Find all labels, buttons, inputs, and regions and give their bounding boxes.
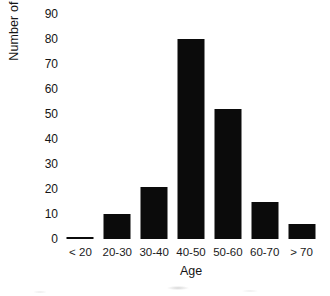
bar-slot <box>283 14 320 239</box>
bar <box>104 214 131 239</box>
bar <box>214 109 241 239</box>
y-tick-30: 30 <box>30 158 58 170</box>
y-axis-title: Number of patients <box>7 0 29 82</box>
scan-artifact <box>0 284 330 296</box>
y-tick-0: 0 <box>30 233 58 245</box>
y-tick-50: 50 <box>30 108 58 120</box>
y-tick-20: 20 <box>30 183 58 195</box>
bar-slot <box>136 14 173 239</box>
bar <box>288 224 315 239</box>
y-tick-70: 70 <box>30 58 58 70</box>
y-tick-90: 90 <box>30 8 58 20</box>
bar-slot <box>246 14 283 239</box>
x-tick-70: > 70 <box>280 245 324 260</box>
bar-slot <box>209 14 246 239</box>
bar <box>177 39 204 239</box>
bar <box>251 202 278 240</box>
x-axis-tick-labels: < 2020-3030-4040-5050-6060-70> 70 <box>62 245 320 263</box>
x-axis-title: Age <box>62 264 320 278</box>
y-tick-60: 60 <box>30 83 58 95</box>
y-tick-40: 40 <box>30 133 58 145</box>
y-tick-10: 10 <box>30 208 58 220</box>
bar-chart-figure: Number of patients 0102030405060708090 <… <box>0 0 330 296</box>
y-axis-tick-labels: 0102030405060708090 <box>30 0 58 296</box>
bar-slot <box>62 14 99 239</box>
bar <box>141 187 168 240</box>
y-tick-80: 80 <box>30 33 58 45</box>
plot-area <box>62 14 320 239</box>
bar-slot <box>99 14 136 239</box>
bar <box>67 237 94 240</box>
bar-slot <box>173 14 210 239</box>
